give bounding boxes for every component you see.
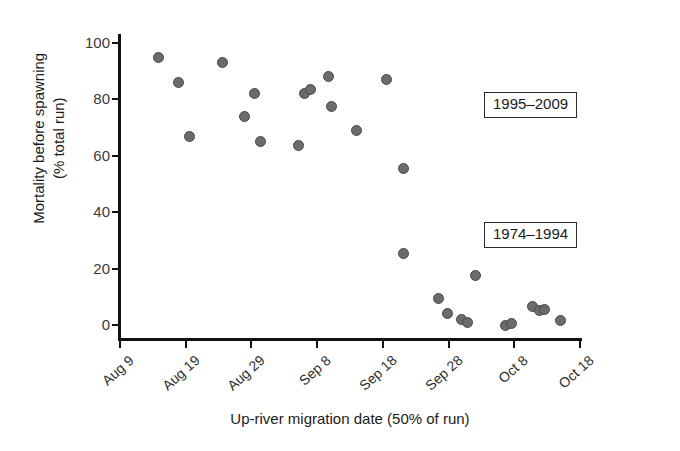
data-point <box>305 84 316 95</box>
data-point <box>398 163 409 174</box>
data-point <box>255 136 266 147</box>
annotation-box-1995-2009: 1995–2009 <box>484 92 577 118</box>
data-point <box>184 131 195 142</box>
data-point <box>293 140 304 151</box>
data-point <box>326 101 337 112</box>
annotation-box-1974-1994: 1974–1994 <box>484 222 577 248</box>
data-point <box>539 304 550 315</box>
data-point <box>555 315 566 326</box>
data-point <box>381 74 392 85</box>
data-point <box>462 317 473 328</box>
data-point <box>153 52 164 63</box>
data-point <box>433 293 444 304</box>
data-point <box>398 248 409 259</box>
data-point <box>442 308 453 319</box>
scatter-chart-figure: 020406080100 Aug 9Aug 19Aug 29Sep 8Sep 1… <box>0 0 680 451</box>
data-point <box>173 77 184 88</box>
data-point <box>249 88 260 99</box>
data-point <box>323 71 334 82</box>
plot-area <box>0 0 680 451</box>
data-point <box>506 318 517 329</box>
data-point <box>351 125 362 136</box>
data-point <box>239 111 250 122</box>
data-point <box>217 57 228 68</box>
data-point <box>470 270 481 281</box>
